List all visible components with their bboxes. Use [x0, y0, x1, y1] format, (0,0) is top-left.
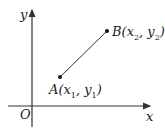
y-axis-label: y [20, 8, 27, 21]
point-b [105, 29, 109, 33]
point-a [58, 75, 62, 79]
coordinate-diagram: y x O B(x2, y2) A(x1, y1) [0, 0, 165, 139]
segment-ab [60, 31, 107, 77]
x-axis-label: x [146, 110, 153, 123]
origin-label: O [20, 108, 31, 121]
point-b-label: B(x2, y2) [112, 25, 165, 42]
point-a-label: A(x1, y1) [49, 83, 102, 100]
